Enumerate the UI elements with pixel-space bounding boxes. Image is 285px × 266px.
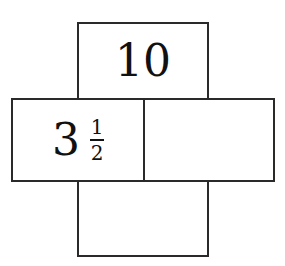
whole-part: 3 — [52, 118, 80, 162]
left-box: 3 1 2 — [11, 98, 145, 182]
top-box: 10 — [77, 22, 209, 100]
numerator: 1 — [91, 117, 104, 137]
fraction: 1 2 — [90, 117, 104, 163]
denominator: 2 — [91, 143, 104, 163]
bottom-box — [77, 180, 209, 257]
right-box — [143, 98, 275, 182]
mixed-number: 3 1 2 — [52, 117, 104, 163]
top-box-value: 10 — [115, 39, 171, 83]
